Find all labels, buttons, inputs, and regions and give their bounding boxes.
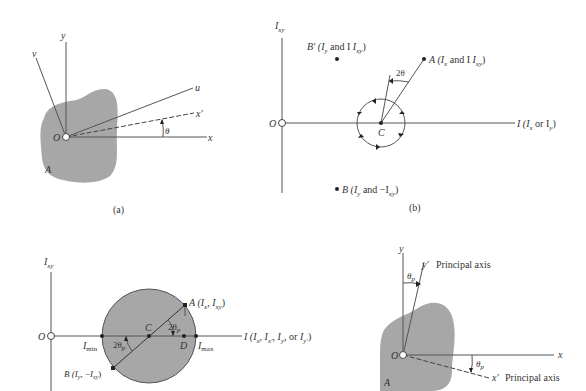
label-i-axis: I (Ix or Iy) bbox=[516, 118, 556, 132]
caption-b: (b) bbox=[409, 202, 421, 214]
label-imax: Imax bbox=[197, 340, 214, 353]
panel-c: Ixy O C D Imin Imax 2θp 2θp A (Ix, Ixy) … bbox=[38, 256, 311, 391]
point-b-prime bbox=[335, 57, 339, 61]
label-origin: O bbox=[269, 118, 276, 129]
caption-a: (a) bbox=[113, 204, 124, 216]
label-i-axis: I (Ix, Ix′, Iy, or Iy′) bbox=[243, 331, 311, 345]
label-theta-p-top: θp bbox=[407, 271, 415, 283]
label-theta: θ bbox=[165, 126, 170, 136]
point-a bbox=[183, 303, 187, 307]
label-x-prime: x′ bbox=[491, 372, 499, 383]
circle-arrow-6 bbox=[399, 111, 405, 114]
label-c: C bbox=[378, 127, 385, 138]
point-c bbox=[147, 334, 151, 338]
label-d: D bbox=[179, 340, 188, 351]
label-point-b: B (Iy, −Ixy) bbox=[64, 369, 101, 380]
origin-marker bbox=[63, 134, 70, 141]
point-imax bbox=[194, 334, 198, 338]
label-area: A bbox=[44, 164, 52, 175]
label-two-theta: 2θ bbox=[396, 68, 405, 78]
circle-arrow-1 bbox=[372, 98, 376, 104]
label-principal-axis-y: Principal axis bbox=[436, 259, 491, 270]
label-point-b-prime: B′ (Iy and I Ixy) bbox=[307, 41, 366, 55]
label-principal-axis-x: Principal axis bbox=[505, 372, 560, 383]
label-point-b: B (Iy and −Ixy) bbox=[342, 184, 398, 198]
label-theta-p-bottom: θp bbox=[476, 359, 484, 371]
circle-arrow-4 bbox=[376, 144, 380, 150]
label-area: A bbox=[383, 377, 391, 388]
label-x-prime: x′ bbox=[195, 108, 203, 119]
label-x: x bbox=[557, 349, 563, 360]
mohr-circle-figure: y v u x′ x O θ A (a) Ixy O C 2θ A (Ix an… bbox=[0, 0, 586, 391]
label-imin: Imin bbox=[82, 340, 98, 353]
arrow-bottom bbox=[469, 368, 473, 373]
point-b bbox=[111, 366, 115, 370]
origin-marker bbox=[279, 120, 286, 127]
label-ixy: Ixy bbox=[274, 20, 285, 34]
label-origin: O bbox=[53, 132, 60, 143]
point-c bbox=[379, 121, 383, 125]
label-ixy: Ixy bbox=[43, 256, 54, 270]
circle-arrow-2 bbox=[357, 112, 362, 115]
point-b bbox=[335, 187, 339, 191]
label-point-a: A (Ix and I Ixy) bbox=[428, 54, 485, 68]
circle-arrow-3 bbox=[358, 134, 364, 138]
theta-arrowhead bbox=[160, 119, 164, 124]
label-origin: O bbox=[391, 350, 398, 361]
label-point-a: A (Ix, Ixy) bbox=[188, 297, 225, 311]
label-x: x bbox=[207, 132, 213, 143]
panel-d: y y′ Principal axis x x′ Principal axis … bbox=[380, 243, 563, 391]
origin-marker bbox=[48, 333, 55, 340]
label-u: u bbox=[195, 82, 200, 93]
panel-a: y v u x′ x O θ A (a) bbox=[32, 30, 213, 216]
point-imin bbox=[100, 334, 104, 338]
point-d bbox=[182, 334, 186, 338]
label-y-prime: y′ bbox=[421, 259, 429, 270]
panel-b: Ixy O C 2θ A (Ix and I Ixy) B′ (Iy and I… bbox=[269, 20, 556, 214]
area-blob bbox=[380, 303, 455, 391]
point-a bbox=[422, 57, 426, 61]
label-y: y bbox=[398, 243, 404, 254]
label-y: y bbox=[60, 30, 66, 41]
label-v: v bbox=[32, 48, 37, 59]
origin-marker bbox=[400, 352, 407, 359]
label-origin: O bbox=[38, 331, 45, 342]
label-c: C bbox=[145, 322, 152, 333]
